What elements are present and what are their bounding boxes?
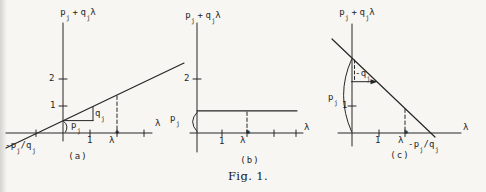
panel-c-neg-qj-label: -qj [355,69,370,78]
panel-b-lambda-star-label: λ* [240,136,251,145]
panel-a-linework [6,23,184,148]
panel-a-qj-label: qj [95,109,105,118]
panel-a-y-axis-title: pj+qjλ [60,8,96,17]
panel-b-label: (b) [240,156,259,165]
panel-c-pj-label: pj [328,93,338,102]
panel-c-xtick-label-1: 1 [375,136,381,145]
panel-c-linework [332,24,461,146]
panel-a-x-axis-label: λ [155,119,161,128]
panel-a-ytick-label-1: 1 [50,101,56,110]
panel-a-label: (a) [68,152,87,161]
panel-b-y-axis-title: pj+qjλ [185,11,221,20]
panel-a-pj-label: pj [71,121,81,130]
panel-a-x-intercept-label: -pj/qj [5,141,36,150]
panel-c-arrowhead [371,79,378,84]
panel-c-ytick-label-1: 1 [342,101,348,110]
panel-c-x-intercept-label: -pj/qj [408,140,439,149]
panel-c-label: (c) [390,151,409,160]
panel-b-xtick-label-1: 1 [219,137,225,146]
panel-c-pj-brace [344,60,352,132]
panel-b-pj-label: pj [170,114,180,123]
panel-a-function-line [6,63,184,148]
panel-a-pj-brace [64,122,67,133]
panel-a-ytick-label-2: 2 [49,74,55,83]
panel-c-x-axis-label: λ [463,123,469,132]
figure-caption: Fig. 1. [228,171,268,183]
panel-a-lambda-star-label: λ* [109,136,120,145]
figure-1: pj+qjλ 2 1 1 λ* pj qj -pj/qj λ (a) pj+qj… [0,0,486,192]
panel-c-y-axis-title: pj+qjλ [339,8,375,17]
panel-b-x-axis-label: λ [304,123,310,132]
panel-b-ytick-label-2: 2 [184,74,190,83]
panel-a-xtick-label-1: 1 [87,136,93,145]
panel-b-pj-brace [193,113,198,132]
